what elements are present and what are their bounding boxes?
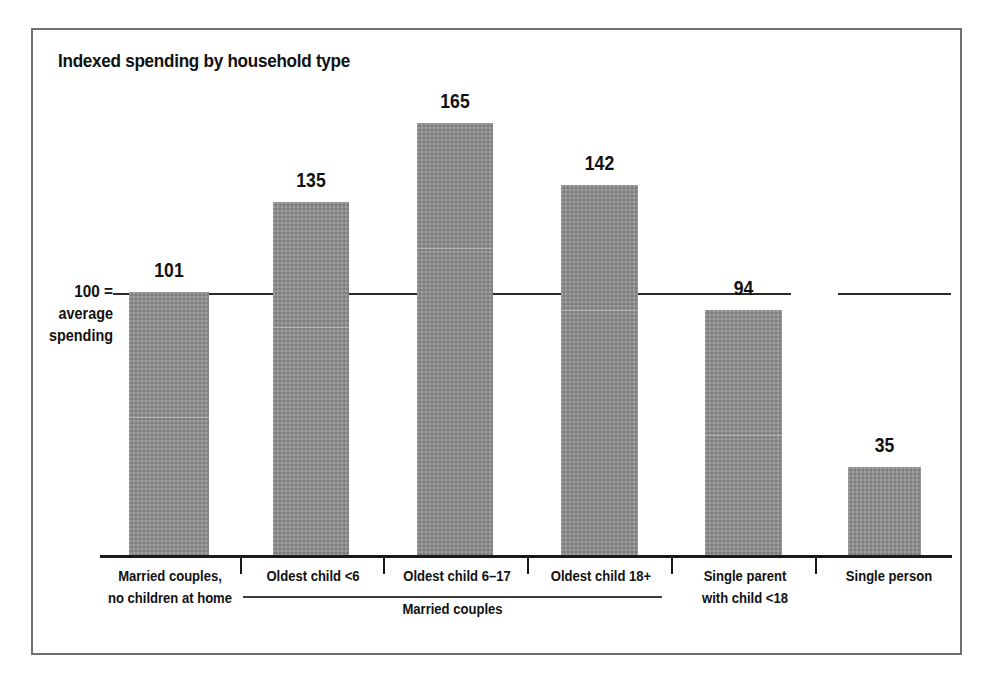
axis-tick-1 — [240, 558, 242, 574]
category-label-line-1: Single person — [826, 566, 952, 588]
reference-line-annotation: 100 = average spending — [29, 281, 113, 346]
category-label-line-2: no children at home — [107, 588, 233, 610]
bar-value-single-person: 35 — [852, 434, 916, 457]
bar-oldest-child-under-6 — [273, 202, 349, 556]
category-label-oldest-child-6-17: Oldest child 6–17 — [394, 566, 520, 588]
chart-page: Indexed spending by household type 100 =… — [0, 0, 990, 694]
bar-oldest-child-18-plus — [561, 185, 638, 556]
bar-value-single-parent-child-under-18: 94 — [710, 277, 778, 300]
axis-tick-3 — [527, 558, 529, 574]
reference-line-desc-line-2: spending — [29, 325, 113, 346]
category-label-line-1: Oldest child <6 — [250, 566, 376, 588]
group-bracket-rule — [243, 596, 662, 598]
bar-married-no-children — [129, 292, 209, 556]
category-label-line-1: Oldest child 18+ — [538, 566, 664, 588]
axis-baseline — [100, 555, 952, 558]
axis-tick-4 — [671, 558, 673, 574]
category-label-oldest-child-under-6: Oldest child <6 — [250, 566, 376, 588]
category-label-married-no-children: Married couples, no children at home — [107, 566, 233, 610]
category-label-single-person: Single person — [826, 566, 952, 588]
category-label-line-1: Single parent — [682, 566, 808, 588]
category-label-line-1: Married couples, — [107, 566, 233, 588]
bar-single-person — [848, 467, 921, 556]
bar-single-parent-child-under-18 — [705, 310, 782, 556]
category-label-line-1: Oldest child 6–17 — [394, 566, 520, 588]
category-label-line-2: with child <18 — [682, 588, 808, 610]
bar-value-oldest-child-6-17: 165 — [422, 90, 489, 113]
bar-value-oldest-child-18-plus: 142 — [566, 152, 634, 175]
bar-oldest-child-6-17 — [417, 123, 493, 556]
axis-tick-5 — [815, 558, 817, 574]
plot-area: 100 = average spending 101 135 165 142 9… — [0, 0, 990, 694]
reference-line-desc-line-1: average — [29, 303, 113, 324]
category-label-oldest-child-18-plus: Oldest child 18+ — [538, 566, 664, 588]
category-label-single-parent-child-under-18: Single parent with child <18 — [682, 566, 808, 610]
bar-value-married-no-children: 101 — [134, 259, 204, 282]
group-label-married-couples: Married couples — [264, 601, 641, 617]
axis-tick-2 — [383, 558, 385, 574]
reference-line-value-label: 100 = — [29, 281, 113, 303]
bar-value-oldest-child-under-6: 135 — [278, 169, 345, 192]
reference-line-right-segment — [838, 293, 951, 295]
